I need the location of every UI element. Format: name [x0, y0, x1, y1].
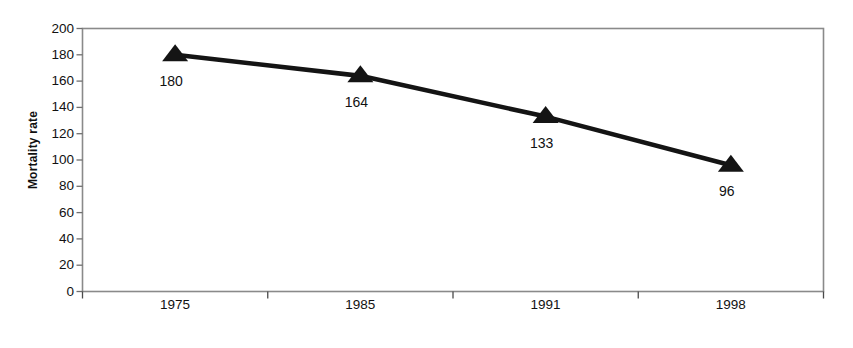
x-axis-tick-label: 1998: [686, 297, 776, 312]
chart-figure: Mortality rate 0204060801001201401601802…: [0, 0, 853, 348]
x-axis-tick-label: 1985: [315, 297, 405, 312]
y-axis-ticks: [77, 29, 83, 292]
x-axis-tick-label: 1975: [130, 297, 220, 312]
data-point-label: 164: [321, 94, 391, 110]
data-point-label: 133: [507, 135, 577, 151]
data-point-label: 96: [692, 183, 762, 199]
x-axis-tick-label: 1991: [501, 297, 591, 312]
data-point-label: 180: [136, 73, 206, 89]
plot-canvas: [0, 0, 853, 348]
